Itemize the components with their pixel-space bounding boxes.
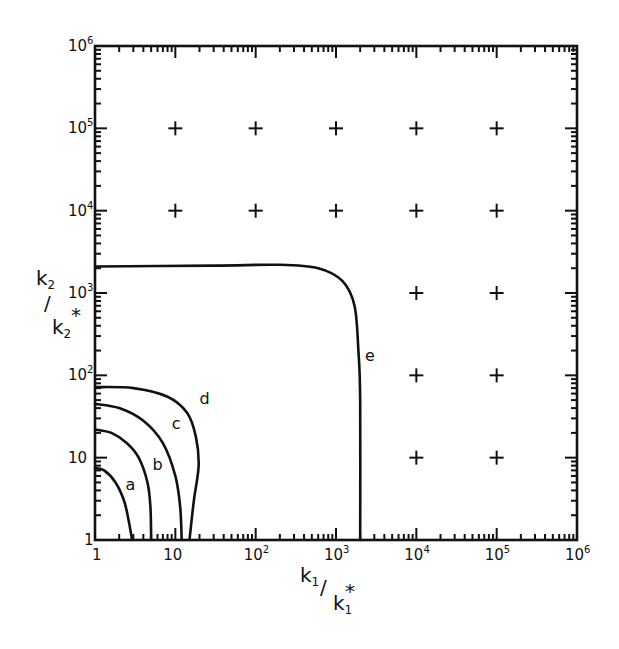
plus-marker [249, 121, 263, 135]
x-tick-label: 104 [404, 544, 429, 564]
y-tick-label: 1 [84, 531, 94, 549]
plus-marker [409, 121, 423, 135]
y-tick-label: 105 [68, 117, 93, 137]
curve-label-b: b [153, 455, 163, 474]
x-tick-label: 10 [163, 546, 182, 564]
log-log-phase-chart: 110102103104105106 110102103104105106 ab… [0, 0, 619, 649]
svg-text:/: / [44, 291, 51, 315]
x-tick-label: 106 [565, 544, 590, 564]
svg-text:k2: k2 [36, 266, 55, 292]
svg-text:*: * [71, 303, 81, 327]
plus-marker [329, 121, 343, 135]
x-tick-label: 103 [324, 544, 349, 564]
curve-labels: abcde [126, 346, 375, 495]
svg-text:/: / [320, 575, 327, 599]
y-tick-label: 10 [68, 449, 87, 467]
x-tick-labels: 110102103104105106 [92, 544, 590, 564]
x-tick-label: 102 [244, 544, 269, 564]
curve-d [95, 387, 199, 540]
svg-text:*: * [345, 579, 355, 603]
plus-marker [490, 368, 504, 382]
curve-label-a: a [126, 475, 136, 494]
y-tick-label: 102 [68, 364, 93, 384]
curve-b [95, 429, 151, 540]
x-tick-label: 105 [485, 544, 510, 564]
curve-label-d: d [200, 389, 210, 408]
curve-label-e: e [365, 346, 375, 365]
plus-marker [409, 368, 423, 382]
plus-marker [490, 451, 504, 465]
plus-marker [329, 204, 343, 218]
curve-e [95, 265, 360, 540]
plot-frame [95, 46, 577, 540]
plus-marker [490, 286, 504, 300]
svg-text:k2: k2 [52, 315, 71, 341]
plus-markers [168, 121, 503, 464]
plus-marker [409, 204, 423, 218]
plus-marker [490, 204, 504, 218]
curve-label-c: c [172, 414, 181, 433]
y-tick-label: 104 [68, 200, 93, 220]
y-tick-label: 103 [68, 282, 93, 302]
y-tick-labels: 110102103104105106 [68, 35, 94, 549]
curves [95, 265, 360, 540]
plus-marker [168, 204, 182, 218]
svg-text:k1: k1 [300, 563, 319, 589]
y-tick-label: 106 [68, 35, 93, 55]
major-ticks [95, 46, 577, 540]
plus-marker [409, 451, 423, 465]
minor-ticks [95, 46, 577, 540]
y-axis-label: k2 / k2 * [36, 266, 81, 341]
x-axis-label: k1 / k1 * [300, 563, 355, 617]
plus-marker [249, 204, 263, 218]
plus-marker [409, 286, 423, 300]
plus-marker [490, 121, 504, 135]
plus-marker [168, 121, 182, 135]
